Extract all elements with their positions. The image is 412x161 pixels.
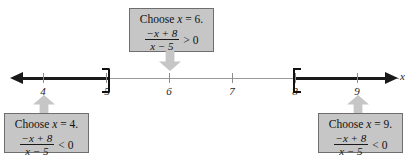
tick-4	[43, 73, 44, 83]
tick-label-4: 4	[32, 85, 54, 97]
axis-arrow-left-icon	[10, 72, 23, 84]
number-line-figure: 4 5 6 7 8 9 x Choose x = 6. −x + 8 x − 5…	[0, 0, 412, 161]
callout-fraction-9: −x + 8 x − 5	[334, 132, 369, 157]
callout-numerator-9: −x + 8	[334, 132, 369, 145]
callout-heading-4: Choose x = 4.	[11, 117, 82, 131]
callout-heading-prefix-9: Choose	[329, 118, 366, 130]
callout-denominator-9: x − 5	[337, 145, 364, 157]
callout-denominator-6: x − 5	[148, 40, 175, 52]
endpoint-bracket-8	[293, 68, 301, 93]
callout-inequality-9: −x + 8 x − 5 < 0	[325, 132, 396, 157]
callout-fraction-6: −x + 8 x − 5	[145, 27, 180, 52]
callout-test-point-6: Choose x = 6. −x + 8 x − 5 > 0	[129, 8, 214, 52]
tick-label-9: 9	[346, 85, 368, 97]
callout-test-point-4: Choose x = 4. −x + 8 x − 5 < 0	[4, 113, 89, 153]
tick-label-6: 6	[158, 85, 180, 97]
tick-7	[232, 73, 233, 83]
callout-comparator-4: < 0	[58, 139, 73, 151]
callout-pointer-down-icon-6	[159, 51, 181, 71]
endpoint-bracket-5	[102, 68, 110, 93]
callout-heading-prefix-6: Choose	[140, 13, 177, 25]
callout-heading-suffix-4: = 4.	[57, 118, 78, 130]
callout-heading-prefix-4: Choose	[15, 118, 52, 130]
callout-numerator-4: −x + 8	[20, 132, 55, 145]
axis-variable-label: x	[400, 70, 405, 82]
callout-heading-9: Choose x = 9.	[325, 117, 396, 131]
tick-9	[357, 73, 358, 83]
callout-heading-suffix-6: = 6.	[182, 13, 203, 25]
callout-heading-suffix-9: = 9.	[371, 118, 392, 130]
tick-label-7: 7	[221, 85, 243, 97]
callout-pointer-up-icon-9	[347, 95, 369, 115]
callout-comparator-6: > 0	[183, 34, 198, 46]
callout-test-point-9: Choose x = 9. −x + 8 x − 5 < 0	[318, 113, 403, 153]
callout-numerator-6: −x + 8	[145, 27, 180, 40]
callout-inequality-4: −x + 8 x − 5 < 0	[11, 132, 82, 157]
tick-6	[169, 73, 170, 83]
axis-arrow-right-icon	[385, 72, 398, 84]
shaded-ray-right	[294, 77, 394, 80]
callout-pointer-up-icon-4	[33, 95, 55, 115]
shaded-ray-left	[22, 77, 108, 80]
callout-heading-6: Choose x = 6.	[136, 12, 207, 26]
callout-inequality-6: −x + 8 x − 5 > 0	[136, 27, 207, 52]
callout-comparator-9: < 0	[372, 139, 387, 151]
callout-denominator-4: x − 5	[23, 145, 50, 157]
callout-fraction-4: −x + 8 x − 5	[20, 132, 55, 157]
